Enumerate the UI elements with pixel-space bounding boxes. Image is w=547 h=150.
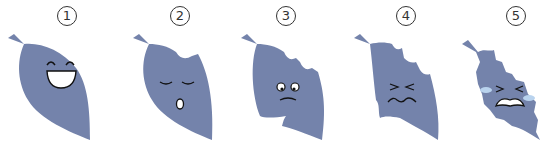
stage-5: 5	[440, 0, 547, 150]
leaf-happy-icon	[0, 0, 110, 150]
leaf-sleepy-icon	[120, 0, 230, 150]
stage-3: 3	[230, 0, 340, 150]
leaf-crying-icon	[440, 0, 547, 150]
leaf-upset-icon	[340, 0, 450, 150]
stage-1: 1	[0, 0, 110, 150]
stage-2: 2	[120, 0, 230, 150]
stage-4: 4	[340, 0, 450, 150]
leaf-worried-icon	[230, 0, 340, 150]
